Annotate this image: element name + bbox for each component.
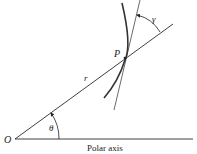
point-label: P — [113, 48, 120, 59]
gamma-arc — [137, 15, 160, 32]
polar-axis-label: Polar axis — [87, 143, 123, 153]
theta-label: θ — [49, 123, 54, 133]
gamma-label: γ — [152, 14, 156, 24]
polar-tangent-diagram: O P r θ γ Polar axis — [0, 0, 197, 154]
radius-label: r — [84, 73, 88, 83]
radius-ray — [15, 24, 173, 139]
origin-label: O — [4, 134, 11, 145]
point-p — [124, 57, 127, 60]
